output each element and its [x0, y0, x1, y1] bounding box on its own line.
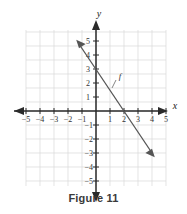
y-tick-label: −2	[84, 135, 93, 144]
function-label: f	[119, 71, 123, 81]
axis-x	[14, 107, 168, 115]
y-tick-label: −3	[84, 149, 93, 158]
y-tick-label: 3	[86, 65, 90, 74]
y-tick-label: −5	[84, 177, 93, 186]
y-tick-label: −1	[84, 121, 93, 130]
x-tick-label: 5	[164, 115, 168, 124]
x-tick-label: −5	[22, 115, 31, 124]
y-tick-label: 2	[86, 79, 90, 88]
y-tick-label: −4	[84, 163, 93, 172]
coordinate-plane-graph: −5 −4 −3 −2 −1 1 2 3 4 5 5 4 3 2 1 −1 −2…	[0, 0, 187, 214]
x-tick-label: 1	[108, 115, 112, 124]
x-tick-label: 2	[122, 115, 126, 124]
figure-caption: Figure 11	[0, 192, 187, 204]
x-tick-labels: −5 −4 −3 −2 −1 1 2 3 4 5	[22, 115, 168, 124]
x-tick-label: 3	[136, 115, 140, 124]
function-label-leader	[112, 80, 116, 88]
axis-x-label: x	[172, 100, 178, 111]
figure-container: −5 −4 −3 −2 −1 1 2 3 4 5 5 4 3 2 1 −1 −2…	[0, 0, 187, 214]
x-tick-label: −2	[64, 115, 73, 124]
x-tick-label: −4	[36, 115, 45, 124]
axis-y-label: y	[96, 8, 102, 19]
x-tick-label: −3	[50, 115, 59, 124]
y-tick-label: 5	[86, 37, 90, 46]
x-tick-label: 4	[150, 115, 154, 124]
y-tick-label: 1	[86, 93, 90, 102]
